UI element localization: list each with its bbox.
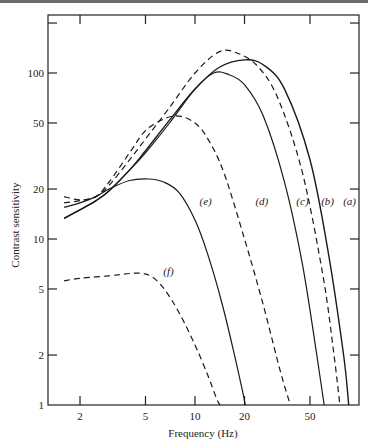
curve-label-e: (e) — [199, 195, 212, 208]
axis-ticks: 25102050125102050100 — [28, 15, 360, 422]
curve-b — [64, 50, 340, 405]
curve-label-b: (b) — [321, 195, 334, 208]
x-axis-title: Frequency (Hz) — [168, 427, 238, 440]
curve-a — [64, 60, 349, 405]
y-tick-label: 20 — [33, 183, 45, 195]
curve-label-f: (f) — [163, 265, 174, 278]
y-tick-label: 10 — [33, 233, 45, 245]
curve-label-c: (c) — [296, 195, 309, 208]
curve-labels: (a)(b)(c)(d)(e)(f) — [163, 195, 356, 278]
contrast-sensitivity-chart: 25102050125102050100 (a)(b)(c)(d)(e)(f) … — [0, 0, 368, 444]
plot-frame — [48, 15, 359, 405]
curve-c — [64, 72, 324, 405]
y-tick-label: 50 — [33, 117, 45, 129]
x-tick-label: 10 — [190, 410, 202, 422]
y-tick-label: 100 — [28, 67, 45, 79]
curve-label-a: (a) — [343, 195, 356, 208]
curve-e — [64, 179, 245, 405]
x-tick-label: 50 — [304, 410, 316, 422]
y-axis-title: Contrast sensitivity — [9, 182, 21, 268]
x-tick-label: 2 — [77, 410, 83, 422]
y-tick-label: 2 — [39, 349, 45, 361]
y-tick-label: 1 — [39, 399, 45, 411]
curve-label-d: (d) — [255, 195, 268, 208]
curve-f — [64, 273, 220, 405]
x-tick-label: 20 — [239, 410, 251, 422]
y-tick-label: 5 — [39, 283, 45, 295]
curves — [64, 50, 349, 405]
x-tick-label: 5 — [143, 410, 149, 422]
curve-d — [64, 116, 290, 405]
